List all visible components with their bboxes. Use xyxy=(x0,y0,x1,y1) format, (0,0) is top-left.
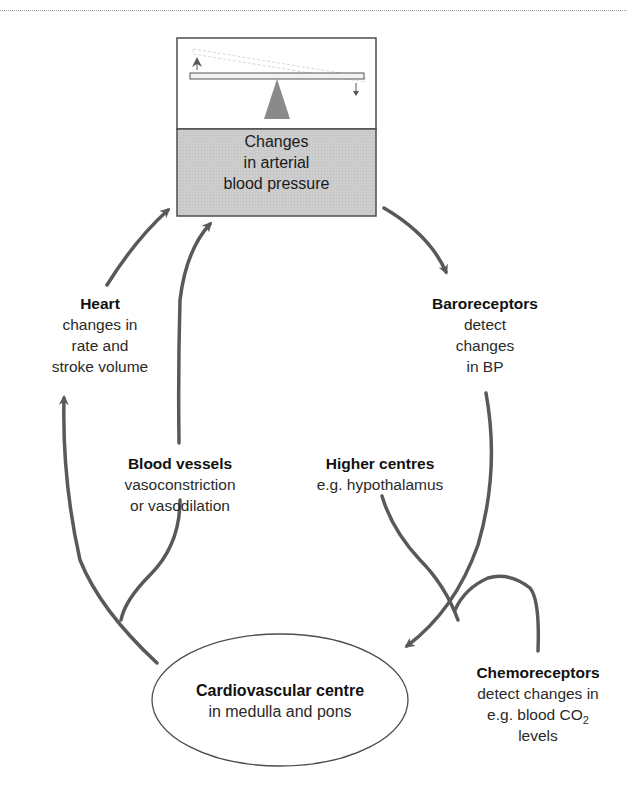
baroreceptors-line-1: detect xyxy=(400,314,570,335)
arrow-higher-centres-to-cvc xyxy=(382,496,458,620)
blood-vessels-label: Blood vessels vasoconstriction or vasodi… xyxy=(105,453,255,516)
baroreceptors-label: Baroreceptors detect changes in BP xyxy=(400,293,570,377)
arrow-cvc-to-blood-vessels-branch xyxy=(121,500,180,620)
bp-box-line-1: Changes xyxy=(177,131,376,152)
heart-line-2: rate and xyxy=(30,335,170,356)
co2-subscript: 2 xyxy=(583,714,589,726)
baroreceptors-line-2: changes xyxy=(400,335,570,356)
chemoreceptors-line-1: detect changes in xyxy=(458,683,618,704)
arrow-cvc-to-heart xyxy=(64,398,157,663)
cardiovascular-centre-title: Cardiovascular centre xyxy=(170,680,390,701)
chemoreceptors-title: Chemoreceptors xyxy=(458,662,618,683)
chemoreceptors-line-3: levels xyxy=(458,725,618,746)
arrow-baroreceptors-to-cvc xyxy=(407,393,491,646)
blood-vessels-title: Blood vessels xyxy=(105,453,255,474)
bp-box-line-2: in arterial xyxy=(177,152,376,173)
cardiovascular-centre-label: Cardiovascular centre in medulla and pon… xyxy=(170,680,390,722)
arrow-heart-to-bp xyxy=(107,210,168,285)
chemoreceptors-label: Chemoreceptors detect changes in e.g. bl… xyxy=(458,662,618,746)
cardiovascular-centre-line-1: in medulla and pons xyxy=(170,701,390,722)
chemoreceptors-line-2-text: e.g. blood CO xyxy=(487,706,583,723)
heart-line-1: changes in xyxy=(30,314,170,335)
arrow-bp-to-baroreceptors xyxy=(384,208,446,272)
higher-centres-line-1: e.g. hypothalamus xyxy=(305,474,455,495)
chemoreceptors-line-2: e.g. blood CO2 xyxy=(458,704,618,725)
arrow-chemoreceptors-to-cvc xyxy=(455,576,538,651)
baroreceptors-title: Baroreceptors xyxy=(400,293,570,314)
blood-vessels-line-1: vasoconstriction xyxy=(105,474,255,495)
heart-label: Heart changes in rate and stroke volume xyxy=(30,293,170,377)
higher-centres-label: Higher centres e.g. hypothalamus xyxy=(305,453,455,495)
baroreceptors-line-3: in BP xyxy=(400,356,570,377)
blood-vessels-line-2: or vasodilation xyxy=(105,495,255,516)
bp-box-label: Changes in arterial blood pressure xyxy=(177,131,376,194)
arrow-blood-vessels-to-bp xyxy=(179,224,210,443)
heart-title: Heart xyxy=(30,293,170,314)
heart-line-3: stroke volume xyxy=(30,356,170,377)
higher-centres-title: Higher centres xyxy=(305,453,455,474)
bp-box-line-3: blood pressure xyxy=(177,173,376,194)
